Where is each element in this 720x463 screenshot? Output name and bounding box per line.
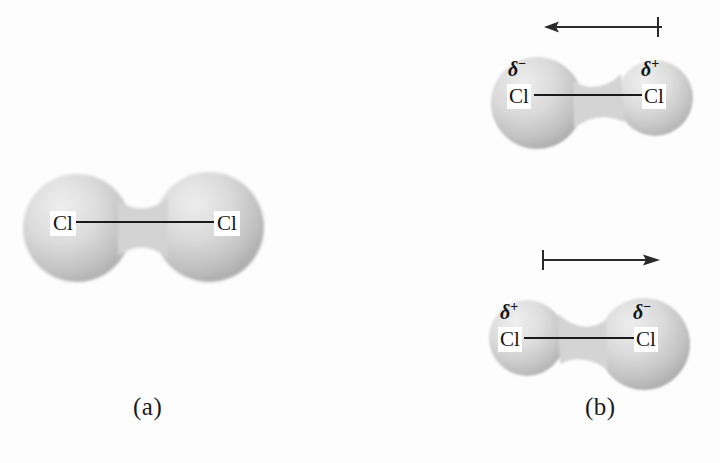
- dipole-arrow-bottom: [528, 243, 678, 277]
- atom-label-a-right: Cl: [214, 211, 240, 236]
- panel-label-b: (b): [585, 393, 616, 421]
- dipole-arrow-top: [530, 10, 680, 44]
- molecule-panel-b-bottom: δ+ Cl δ− Cl: [478, 288, 708, 400]
- sphere-neck-a: [118, 198, 168, 258]
- molecule-panel-b-top: δ− Cl δ+ Cl: [478, 48, 708, 160]
- sphere-neck-b-bottom: [558, 314, 608, 370]
- chlorine-sphere-b-top-left-delta-minus: [491, 57, 583, 149]
- dipole-arrow-bottom-wrap: [528, 243, 678, 277]
- charge-label-b-bottom-left: δ+: [500, 299, 518, 324]
- chlorine-sphere-left: [23, 174, 131, 282]
- atom-label-b-top-left: Cl: [507, 84, 531, 109]
- atom-label-b-bottom-right: Cl: [634, 327, 658, 352]
- molecule-panel-a: Cl Cl: [18, 160, 278, 300]
- chlorine-sphere-right: [154, 172, 264, 282]
- charge-label-b-bottom-right: δ−: [633, 299, 651, 324]
- panel-label-a: (a): [133, 393, 162, 421]
- atom-label-b-top-right: Cl: [642, 84, 666, 109]
- figure-canvas: Cl Cl (a): [0, 0, 720, 463]
- dipole-arrow-top-wrap: [530, 10, 680, 44]
- charge-label-b-top-right: δ+: [641, 56, 659, 81]
- charge-label-b-top-left: δ−: [508, 56, 526, 81]
- sphere-neck-b-top: [573, 74, 624, 128]
- atom-label-b-bottom-left: Cl: [498, 327, 522, 352]
- atom-label-a-left: Cl: [50, 211, 76, 236]
